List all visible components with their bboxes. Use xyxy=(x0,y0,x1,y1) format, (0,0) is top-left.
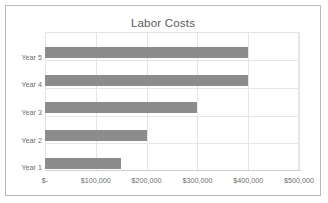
x-axis-tick-labels: $- $100,000 $200,000 $300,000 $400,000 $… xyxy=(6,174,320,188)
chart-title: Labor Costs xyxy=(6,17,320,29)
gridline-horizontal-1 xyxy=(45,60,299,61)
x-tick-label-0: $- xyxy=(42,176,48,185)
y-axis-label-year3: Year 3 xyxy=(21,108,42,117)
x-axis-line xyxy=(45,170,301,171)
x-tick-label-500000: $500,000 xyxy=(284,176,314,185)
bar-year3[interactable] xyxy=(45,102,197,113)
gridline-horizontal-2 xyxy=(45,88,299,89)
x-tick-label-200000: $200,000 xyxy=(132,176,162,185)
bar-row-year2 xyxy=(45,130,299,141)
bar-row-year5 xyxy=(45,47,299,58)
bar-row-year1 xyxy=(45,158,299,169)
x-tick-label-300000: $300,000 xyxy=(182,176,212,185)
x-tick-label-100000: $100,000 xyxy=(81,176,111,185)
chart-container: Labor Costs Year 5 Year 4 Year 3 Year 2 … xyxy=(5,5,321,196)
x-tick-label-400000: $400,000 xyxy=(233,176,263,185)
bar-row-year4 xyxy=(45,75,299,86)
bar-year1[interactable] xyxy=(45,158,121,169)
y-axis-label-year4: Year 4 xyxy=(21,80,42,89)
bar-row-year3 xyxy=(45,102,299,113)
y-axis-label-year5: Year 5 xyxy=(21,53,42,62)
y-axis-label-year2: Year 2 xyxy=(21,136,42,145)
bar-year2[interactable] xyxy=(45,130,147,141)
plot-area xyxy=(45,32,300,170)
gridline-horizontal-3 xyxy=(45,116,299,117)
bar-year4[interactable] xyxy=(45,75,248,86)
y-axis-label-year1: Year 1 xyxy=(21,163,42,172)
gridline-horizontal-4 xyxy=(45,143,299,144)
bar-year5[interactable] xyxy=(45,47,248,58)
y-axis-category-labels: Year 5 Year 4 Year 3 Year 2 Year 1 xyxy=(12,32,42,170)
